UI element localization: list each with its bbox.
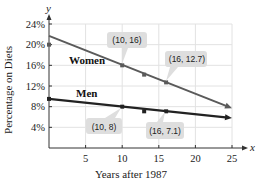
y-axis-arrow-icon: [47, 14, 52, 20]
svg-text:(10, 16): (10, 16): [112, 35, 141, 45]
y-tick-label: 16%: [26, 60, 46, 71]
x-tick-label: 20: [190, 153, 201, 164]
callout-men-10: (10, 8): [86, 108, 122, 134]
y-tick-label: 20%: [26, 39, 46, 50]
callout-women-10: (10, 16): [107, 32, 147, 64]
y-axis-title: Percentage on Diets: [2, 46, 14, 134]
chart: 5101520254%8%12%16%20%24% (10, 16) (16, …: [0, 0, 263, 183]
y-tick-label: 8%: [31, 101, 45, 112]
series-label-men: Men: [76, 87, 97, 99]
callout-men-16: (16, 7.1): [146, 112, 184, 139]
x-axis-title: Years after 1987: [95, 168, 168, 180]
data-point: [120, 105, 124, 109]
data-point: [120, 63, 124, 67]
x-tick-label: 15: [154, 153, 165, 164]
series-lines: [49, 36, 232, 120]
y-tick-label: 4%: [31, 122, 45, 133]
x-axis-arrow-icon: [242, 146, 248, 151]
series-label-women: Women: [69, 54, 105, 66]
data-point: [47, 43, 51, 47]
y-axis-letter: y: [45, 2, 51, 14]
series-arrow-icon: [224, 103, 232, 109]
data-point: [47, 97, 51, 101]
y-tick-label: 24%: [26, 19, 46, 30]
y-tick-label: 12%: [26, 81, 46, 92]
x-tick-label: 25: [227, 153, 238, 164]
svg-text:(16, 12.7): (16, 12.7): [169, 54, 206, 64]
x-axis-letter: x: [249, 141, 255, 153]
data-point: [142, 73, 146, 77]
series-arrow-icon: [225, 114, 232, 120]
svg-text:(16, 7.1): (16, 7.1): [149, 126, 181, 136]
svg-text:(10, 8): (10, 8): [92, 122, 117, 132]
data-points: [47, 43, 168, 114]
data-point: [164, 80, 168, 84]
x-tick-label: 10: [117, 153, 128, 164]
x-tick-label: 5: [83, 153, 88, 164]
data-point: [142, 109, 146, 113]
series-line-men: [49, 99, 228, 118]
callout-women-16: (16, 12.7): [165, 51, 207, 81]
